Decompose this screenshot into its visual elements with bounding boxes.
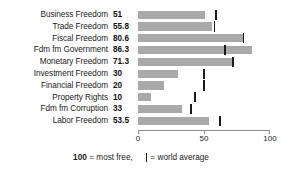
row-category-label: Business Freedom xyxy=(41,9,108,21)
row-plot-area xyxy=(138,80,270,92)
row-value-label: 80.6 xyxy=(113,33,129,45)
row-plot-area xyxy=(138,103,270,115)
world-average-marker-icon xyxy=(214,21,216,31)
value-bar xyxy=(138,93,151,101)
chart-row: Fiscal Freedom80.6 xyxy=(0,33,282,45)
row-plot-area xyxy=(138,9,270,21)
row-category-label: Fdm fm Corruption xyxy=(41,103,108,115)
value-bar xyxy=(138,105,182,113)
chart-row: Monetary Freedom71.3 xyxy=(0,56,282,68)
value-bar xyxy=(138,46,252,54)
chart-rows: Business Freedom51Trade Freedom55.8Fisca… xyxy=(0,9,282,127)
value-bar xyxy=(138,34,244,42)
row-category-label: Property Rights xyxy=(52,92,108,104)
world-average-marker-icon xyxy=(190,104,192,114)
row-value-label: 10 xyxy=(113,92,122,104)
row-plot-area xyxy=(138,44,270,56)
chart-row: Trade Freedom55.8 xyxy=(0,21,282,33)
row-plot-area xyxy=(138,68,270,80)
chart-row: Business Freedom51 xyxy=(0,9,282,21)
legend-most-free-value: 100 xyxy=(73,153,87,162)
legend-most-free-label: = most free, xyxy=(89,153,132,162)
x-axis: 050100 xyxy=(138,130,270,131)
row-plot-area xyxy=(138,92,270,104)
chart-row: Labor Freedom53.5 xyxy=(0,115,282,127)
chart-row: Investment Freedom30 xyxy=(0,68,282,80)
value-bar xyxy=(138,58,232,66)
row-value-label: 71.3 xyxy=(113,56,129,68)
row-plot-area xyxy=(138,33,270,45)
row-plot-area xyxy=(138,56,270,68)
world-average-marker-icon xyxy=(243,33,245,43)
freedom-index-bar-chart: Business Freedom51Trade Freedom55.8Fisca… xyxy=(0,0,282,173)
legend-world-average-label: = world average xyxy=(150,153,208,162)
row-plot-area xyxy=(138,115,270,127)
value-bar xyxy=(138,22,212,30)
value-bar xyxy=(138,11,205,19)
world-average-marker-icon xyxy=(146,153,148,162)
world-average-marker-icon xyxy=(203,80,205,90)
axis-tick-label: 50 xyxy=(200,134,209,144)
row-value-label: 20 xyxy=(113,80,122,92)
world-average-marker-icon xyxy=(219,116,221,126)
chart-row: Fdm fm Government86.3 xyxy=(0,44,282,56)
row-category-label: Fdm fm Government xyxy=(34,44,108,56)
value-bar xyxy=(138,70,178,78)
axis-tick-label: 100 xyxy=(263,134,276,144)
chart-row: Fdm fm Corruption33 xyxy=(0,103,282,115)
world-average-marker-icon xyxy=(215,10,217,20)
row-value-label: 55.8 xyxy=(113,21,129,33)
row-value-label: 30 xyxy=(113,68,122,80)
chart-row: Financial Freedom20 xyxy=(0,80,282,92)
row-value-label: 53.5 xyxy=(113,115,129,127)
row-category-label: Labor Freedom xyxy=(53,115,108,127)
axis-tick-mark xyxy=(269,130,270,134)
chart-row: Property Rights10 xyxy=(0,92,282,104)
legend-item-most-free: 100 = most free, xyxy=(73,153,133,162)
axis-tick-label: 0 xyxy=(136,134,140,144)
value-bar xyxy=(138,117,209,125)
row-value-label: 33 xyxy=(113,103,122,115)
value-bar xyxy=(138,81,164,89)
world-average-marker-icon xyxy=(203,69,205,79)
row-category-label: Trade Freedom xyxy=(53,21,108,33)
row-category-label: Financial Freedom xyxy=(41,80,108,92)
axis-tick-mark xyxy=(138,130,139,134)
legend-item-world-average: = world average xyxy=(146,153,209,162)
axis-tick-mark xyxy=(204,130,205,134)
row-plot-area xyxy=(138,21,270,33)
world-average-marker-icon xyxy=(232,57,234,67)
row-value-label: 86.3 xyxy=(113,44,129,56)
chart-legend: 100 = most free, = world average xyxy=(0,150,282,164)
row-category-label: Investment Freedom xyxy=(34,68,108,80)
row-category-label: Monetary Freedom xyxy=(40,56,108,68)
world-average-marker-icon xyxy=(224,45,226,55)
world-average-marker-icon xyxy=(194,92,196,102)
row-category-label: Fiscal Freedom xyxy=(52,33,108,45)
row-value-label: 51 xyxy=(113,9,122,21)
